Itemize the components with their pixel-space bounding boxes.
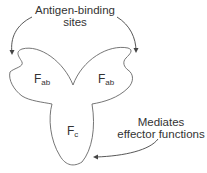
antibody-outline [10, 47, 133, 165]
effector-label: Mediates effector functions [115, 116, 207, 140]
arrowhead-effector-icon [93, 155, 98, 160]
effector-line2: effector functions [115, 128, 207, 140]
arrow-left [12, 17, 32, 53]
arrow-right [117, 17, 136, 51]
antigen-binding-label: Antigen-binding sites [32, 4, 118, 28]
arrow-effector [96, 139, 158, 157]
fc-label: Fc [67, 124, 78, 139]
fab-right-label: Fab [98, 72, 114, 87]
fab-left-label: Fab [34, 72, 50, 87]
effector-line1: Mediates [115, 116, 207, 128]
antigen-binding-line1: Antigen-binding [32, 4, 118, 16]
arrowhead-left-icon [10, 50, 15, 55]
antigen-binding-line2: sites [32, 16, 118, 28]
arrowhead-right-icon [134, 48, 139, 53]
